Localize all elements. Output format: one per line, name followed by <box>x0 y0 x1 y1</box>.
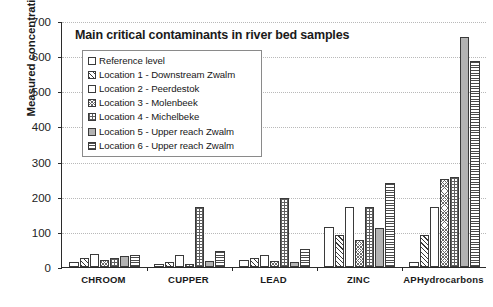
bar-aphydrocarbons-series-1 <box>420 235 430 267</box>
bar-lead-series-3 <box>270 261 280 267</box>
y-tick-mark <box>58 268 62 269</box>
legend-item-0: Reference level <box>88 54 257 68</box>
bar-lead-series-1 <box>250 258 260 267</box>
chart-legend: Reference levelLocation 1 - Downstream Z… <box>82 50 262 157</box>
y-tick-label: 400 <box>7 122 51 132</box>
bar-cupper-series-2 <box>175 255 185 267</box>
legend-label: Location 3 - Molenbeek <box>99 98 198 108</box>
bar-zinc-series-4 <box>365 207 375 267</box>
legend-swatch-icon <box>88 71 96 79</box>
y-tick-mark <box>58 163 62 164</box>
bar-chroom-series-5 <box>120 256 130 267</box>
legend-label: Location 5 - Upper reach Zwalm <box>99 127 234 137</box>
legend-swatch-icon <box>88 99 96 107</box>
y-tick-mark <box>58 127 62 128</box>
legend-swatch-icon <box>88 85 96 93</box>
bar-zinc-series-1 <box>335 235 345 267</box>
y-tick-label: 200 <box>7 193 51 203</box>
bar-cupper-series-6 <box>215 251 225 267</box>
legend-swatch-icon <box>88 142 96 150</box>
y-tick-label: 0 <box>7 263 51 273</box>
x-axis-label-lead: LEAD <box>231 274 316 285</box>
x-axis-label-zinc: ZINC <box>316 274 401 285</box>
bar-zinc-series-2 <box>345 207 355 267</box>
legend-swatch-icon <box>88 128 96 136</box>
bar-aphydrocarbons-series-0 <box>409 262 419 267</box>
bar-chroom-series-4 <box>110 258 120 267</box>
x-tick-mark <box>232 267 233 271</box>
bar-group-aphydrocarbons <box>409 22 479 267</box>
x-tick-mark <box>402 267 403 271</box>
legend-label: Location 6 - Upper reach Zwalm <box>99 141 234 151</box>
bar-lead-series-4 <box>280 198 290 267</box>
bar-aphydrocarbons-series-2 <box>430 207 440 267</box>
bar-zinc-series-0 <box>324 227 334 267</box>
bar-lead-series-0 <box>239 260 249 267</box>
bar-cupper-series-1 <box>165 262 175 267</box>
legend-item-3: Location 3 - Molenbeek <box>88 96 257 110</box>
y-tick-mark <box>58 92 62 93</box>
bar-chroom-series-2 <box>90 254 100 267</box>
legend-item-6: Location 6 - Upper reach Zwalm <box>88 139 257 153</box>
legend-item-2: Location 2 - Peerdestok <box>88 82 257 96</box>
bar-aphydrocarbons-series-5 <box>460 37 470 267</box>
legend-item-5: Location 5 - Upper reach Zwalm <box>88 124 257 138</box>
y-tick-label: 700 <box>7 17 51 27</box>
bar-chart: Measured concentrations (mg/kg) 70060050… <box>0 0 493 307</box>
legend-swatch-icon <box>88 57 96 65</box>
legend-item-4: Location 4 - Michelbeke <box>88 110 257 124</box>
bar-zinc-series-3 <box>355 240 365 267</box>
bar-chroom-series-3 <box>100 260 110 267</box>
legend-label: Location 1 - Downstream Zwalm <box>99 70 235 80</box>
x-axis-label-aphydrocarbons: APHydrocarbons <box>401 274 486 285</box>
legend-label: Reference level <box>99 56 165 66</box>
bar-cupper-series-3 <box>185 264 195 268</box>
y-tick-label: 500 <box>7 87 51 97</box>
bar-lead-series-5 <box>290 262 300 267</box>
bar-cupper-series-5 <box>205 261 215 267</box>
bar-cupper-series-0 <box>154 264 164 267</box>
bar-aphydrocarbons-series-6 <box>470 61 480 267</box>
legend-item-1: Location 1 - Downstream Zwalm <box>88 68 257 82</box>
bar-cupper-series-4 <box>195 207 205 267</box>
legend-label: Location 2 - Peerdestok <box>99 84 199 94</box>
bar-chroom-series-0 <box>69 262 79 267</box>
x-axis-label-cupper: CUPPER <box>146 274 231 285</box>
y-tick-label: 600 <box>7 52 51 62</box>
y-tick-mark <box>58 233 62 234</box>
y-tick-mark <box>58 198 62 199</box>
bar-chroom-series-1 <box>80 258 90 267</box>
bar-lead-series-6 <box>300 249 310 267</box>
bar-chroom-series-6 <box>130 255 140 267</box>
y-tick-mark <box>58 57 62 58</box>
legend-label: Location 4 - Michelbeke <box>99 112 199 122</box>
y-tick-mark <box>58 22 62 23</box>
bar-aphydrocarbons-series-4 <box>450 177 460 267</box>
y-tick-label: 300 <box>7 158 51 168</box>
bar-lead-series-2 <box>260 255 270 267</box>
bar-zinc-series-5 <box>375 228 385 267</box>
y-tick-label: 100 <box>7 228 51 238</box>
x-tick-mark <box>317 267 318 271</box>
legend-swatch-icon <box>88 113 96 121</box>
bar-zinc-series-6 <box>385 183 395 267</box>
x-tick-mark <box>147 267 148 271</box>
x-axis-label-chroom: CHROOM <box>61 274 146 285</box>
bar-aphydrocarbons-series-3 <box>440 179 450 267</box>
chart-title: Main critical contaminants in river bed … <box>75 28 349 42</box>
bar-group-zinc <box>324 22 394 267</box>
